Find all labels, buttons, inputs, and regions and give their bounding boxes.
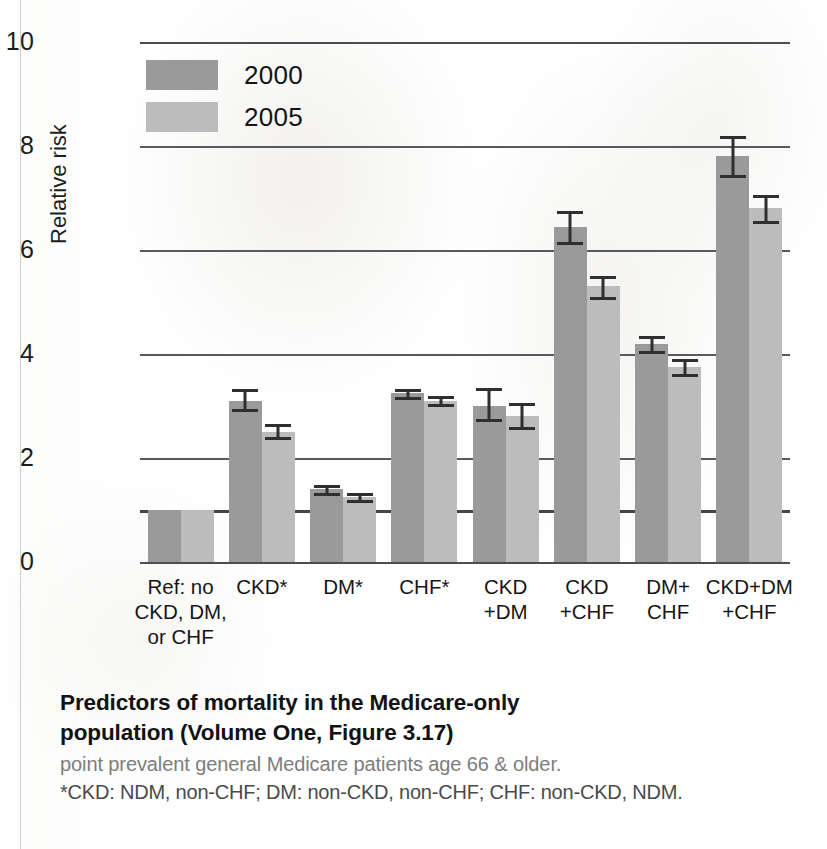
error-bar-cap-top [720,136,746,139]
x-tick-7: CKD+DM +CHF [697,574,802,624]
error-bar-cap-top [753,195,779,198]
caption-title-line-2: population (Volume One, Figure 3.17) [60,718,810,748]
bar-rect [343,497,376,562]
error-bar-cap-bottom [753,221,779,224]
error-bar-line [731,136,734,175]
bar-rect [668,367,701,562]
y-axis-label: Relative risk [46,44,72,244]
bar-rect [262,432,295,562]
bar-2000-7 [716,42,749,562]
error-bar-line [764,195,767,221]
bar-2005-5 [587,42,620,562]
caption-footnote: *CKD: NDM, non-CHF; DM: non-CKD, non-CHF… [60,779,810,805]
bar-2005-6 [668,42,701,562]
error-bar-cap-top [639,336,665,339]
y-tick-6: 6 [0,237,34,262]
error-bar-cap-top [232,389,258,392]
error-bar-cap-top [395,389,421,392]
bar-rect [506,416,539,562]
bar-2000-2 [310,42,343,562]
error-bar-cap-top [672,359,698,362]
bar-rect [716,156,749,562]
error-bar-cap-bottom [509,427,535,430]
chart-legend: 20002005 [146,57,303,141]
bar-rect [310,489,343,562]
bar-rect [181,510,214,562]
y-tick-10: 10 [0,29,34,54]
x-axis-baseline [140,562,790,564]
error-bar-line [569,211,572,242]
bar-2005-7 [749,42,782,562]
bar-rect [148,510,181,562]
error-bar-cap-top [476,388,502,391]
bar-rect [229,401,262,562]
y-tick-0: 0 [0,549,34,574]
error-bar-cap-bottom [232,409,258,412]
error-bar-cap-bottom [314,493,340,496]
error-bar-cap-top [265,424,291,427]
error-bar-line [488,388,491,419]
y-tick-8: 8 [0,133,34,158]
legend-swatch-2005 [146,102,218,132]
bar-rect [391,393,424,562]
bar-chart: Relative risk 0246810 Ref: no CKD, DM, o… [0,0,827,670]
bar-2000-6 [635,42,668,562]
error-bar-cap-bottom [265,437,291,440]
legend-item-2000: 2000 [146,57,303,93]
bar-rect [554,227,587,562]
bar-2005-2 [343,42,376,562]
error-bar-cap-bottom [476,419,502,422]
error-bar-cap-top [347,493,373,496]
bar-2000-4 [473,42,506,562]
legend-label-2000: 2000 [244,60,303,91]
bar-rect [587,286,620,562]
bar-rect [424,401,457,562]
y-tick-4: 4 [0,341,34,366]
error-bar-cap-bottom [395,397,421,400]
error-bar-cap-top [557,211,583,214]
caption-title-line-1: Predictors of mortality in the Medicare-… [60,688,810,718]
error-bar-cap-bottom [590,297,616,300]
error-bar-cap-bottom [720,175,746,178]
y-tick-2: 2 [0,445,34,470]
error-bar-cap-bottom [672,374,698,377]
bar-2000-3 [391,42,424,562]
error-bar-cap-top [590,276,616,279]
error-bar-cap-bottom [557,242,583,245]
caption-subtitle: point prevalent general Medicare patient… [60,751,810,777]
bar-2000-5 [554,42,587,562]
error-bar-cap-top [428,396,454,399]
bar-rect [473,406,506,562]
figure-caption: Predictors of mortality in the Medicare-… [60,688,810,805]
bar-rect [635,344,668,562]
legend-swatch-2000 [146,60,218,90]
error-bar-cap-bottom [428,404,454,407]
bar-rect [749,208,782,562]
error-bar-line [521,403,524,426]
legend-label-2005: 2005 [244,102,303,133]
error-bar-cap-top [509,403,535,406]
bar-2005-4 [506,42,539,562]
error-bar-cap-top [314,485,340,488]
error-bar-cap-bottom [639,351,665,354]
legend-item-2005: 2005 [146,99,303,135]
bar-2005-3 [424,42,457,562]
error-bar-line [602,276,605,297]
error-bar-cap-bottom [347,500,373,503]
